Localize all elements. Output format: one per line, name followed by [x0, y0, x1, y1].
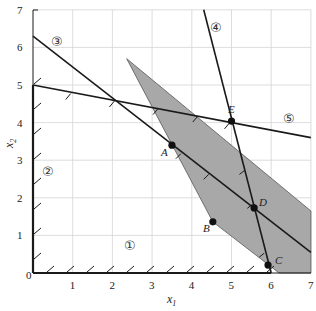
hatch-mark: [34, 178, 41, 184]
point-label-c: C: [275, 254, 283, 266]
hatch-mark: [34, 153, 41, 159]
x-tick-label: 0: [26, 269, 32, 281]
y-tick-label: 7: [17, 4, 23, 16]
hatch-mark: [127, 266, 134, 272]
y-tick-label: 3: [17, 154, 23, 166]
constraint-label-4: ④: [210, 20, 222, 35]
hatch-mark: [107, 266, 114, 272]
hatch-mark: [207, 266, 214, 272]
point-a: [168, 142, 175, 149]
y-tick-label: 4: [17, 117, 23, 129]
x-tick-label: 5: [229, 279, 235, 291]
hatch-mark: [247, 266, 254, 272]
point-e: [228, 117, 235, 124]
hatch-mark: [34, 128, 41, 134]
point-d: [251, 204, 258, 211]
point-c: [264, 262, 271, 269]
hatch-mark: [87, 266, 94, 272]
hatch-mark: [34, 253, 41, 259]
constraint-label-2: ②: [42, 164, 54, 179]
point-label-b: B: [203, 222, 210, 234]
hatch-mark: [66, 94, 71, 100]
x-tick-label: 1: [70, 279, 76, 291]
point-label-a: A: [160, 146, 168, 158]
point-label-d: D: [258, 196, 267, 208]
hatch-mark: [34, 203, 41, 209]
y-tick-label: 6: [17, 41, 23, 53]
hatch-mark: [187, 266, 194, 272]
x-tick-label: 6: [268, 279, 274, 291]
point-b: [209, 218, 216, 225]
constraint-label-5: ⑤: [283, 111, 295, 126]
y-tick-label: 1: [17, 229, 23, 241]
y-axis-label: x2: [2, 139, 18, 149]
constraint-label-3: ③: [51, 34, 63, 49]
point-label-e: E: [227, 103, 235, 115]
hatch-mark: [47, 266, 54, 272]
y-tick-label: 2: [17, 192, 23, 204]
y-tick-label: 5: [17, 79, 23, 91]
hatch-mark: [225, 123, 230, 129]
x-axis-label: x1: [166, 292, 176, 308]
hatch-mark: [147, 266, 154, 272]
hatch-mark: [227, 266, 234, 272]
hatch-mark: [34, 228, 41, 234]
linear-programming-chart: 012345671234567 x1 x2 ① ② ③ ④ ⑤ A B C D …: [0, 0, 316, 311]
x-tick-label: 3: [149, 279, 155, 291]
x-tick-label: 7: [308, 279, 314, 291]
x-tick-label: 2: [109, 279, 115, 291]
shaded-region: [127, 59, 311, 273]
hatch-mark: [167, 266, 174, 272]
hatch-mark: [34, 78, 41, 84]
x-tick-label: 4: [189, 279, 195, 291]
hatch-mark: [34, 103, 41, 109]
hatch-mark: [109, 101, 114, 107]
constraint-label-1: ①: [124, 238, 136, 253]
